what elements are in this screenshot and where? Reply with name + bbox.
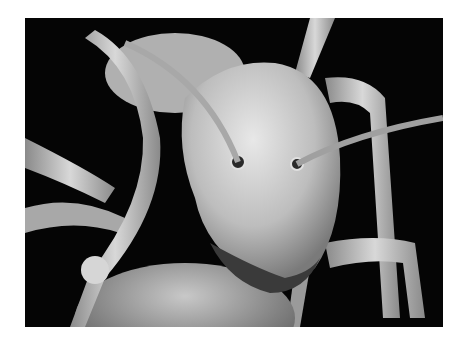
- head: [182, 62, 341, 283]
- ant-sem-photo: [25, 18, 443, 327]
- leg-left-upper: [25, 138, 115, 203]
- leg-right-back: [295, 18, 335, 78]
- joint: [81, 256, 109, 284]
- ant-illustration: [25, 18, 443, 327]
- leg-right-lower: [325, 238, 425, 318]
- leg-left-mid: [25, 202, 125, 233]
